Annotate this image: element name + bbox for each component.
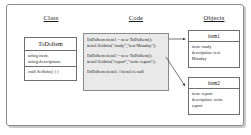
- column-header-code: Code: [104, 14, 168, 21]
- code-block: ToDoItem item1 = new ToDoItem(); item1.S…: [83, 33, 169, 91]
- diagram-canvas: Class Code Objects ToDoItem string item;…: [0, 0, 251, 135]
- code-line: item2.SetInfo("report","write report");: [87, 59, 167, 65]
- uml-class-box: ToDoItem string item; string description…: [24, 37, 77, 81]
- object-name-label: item2: [189, 78, 239, 89]
- code-line: ToDoItem item3; //item3 is null: [87, 69, 167, 75]
- code-line: item1.SetInfo("study","test Monday");: [87, 43, 167, 49]
- object-attribute-line: Monday: [192, 56, 237, 62]
- class-name-label: ToDoItem: [25, 38, 76, 51]
- code-group: ToDoItem item3; //item3 is null: [87, 69, 167, 75]
- class-operations-compartment: void SetInfo() {}: [25, 67, 76, 76]
- object-attributes-compartment: item: report description: write report: [189, 89, 239, 111]
- column-header-objects: Objects: [188, 14, 240, 21]
- object-name-label: item1: [189, 31, 239, 42]
- object-attribute-line: report: [192, 103, 237, 109]
- object-box-item2: item2 item: report description: write re…: [188, 77, 240, 115]
- object-attributes-compartment: item: study description: test Monday: [189, 42, 239, 64]
- class-operation-line: void SetInfo() {}: [28, 69, 74, 75]
- class-attribute-line: string description;: [28, 59, 74, 65]
- code-group: ToDoItem item2 = new ToDoItem(); item2.S…: [87, 53, 167, 65]
- class-attributes-compartment: string item; string description;: [25, 51, 76, 67]
- column-header-class: Class: [20, 14, 82, 21]
- object-box-item1: item1 item: study description: test Mond…: [188, 30, 240, 68]
- code-group: ToDoItem item1 = new ToDoItem(); item1.S…: [87, 37, 167, 49]
